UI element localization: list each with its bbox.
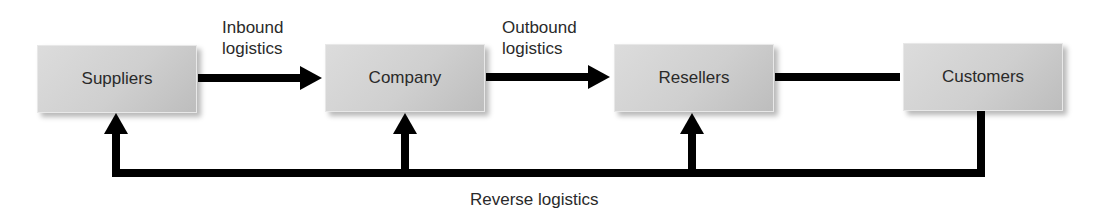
inbound-logistics-label: Inbound logistics <box>222 17 283 59</box>
node-label: Resellers <box>659 68 730 88</box>
node-suppliers: Suppliers <box>37 45 197 113</box>
inbound-arrow <box>198 66 322 90</box>
label-line: Inbound <box>222 17 283 38</box>
node-customers: Customers <box>903 43 1063 111</box>
node-label: Customers <box>942 67 1024 87</box>
outbound-logistics-label: Outbound logistics <box>502 17 577 59</box>
label-line: logistics <box>222 38 283 59</box>
node-resellers: Resellers <box>614 44 774 112</box>
node-company: Company <box>325 44 485 112</box>
reverse-logistics-label: Reverse logistics <box>470 189 599 210</box>
label-line: logistics <box>502 38 577 59</box>
resellers-customers-line <box>775 73 900 81</box>
reverse-logistics-path <box>104 111 985 177</box>
node-label: Company <box>369 68 442 88</box>
label-line: Outbound <box>502 17 577 38</box>
node-label: Suppliers <box>82 69 153 89</box>
outbound-arrow <box>486 65 610 89</box>
